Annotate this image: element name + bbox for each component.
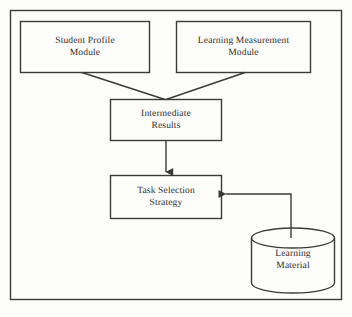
node-learning-measurement-module [177, 22, 311, 73]
edge-student-profile-to-intermediate [82, 73, 165, 100]
edge-learning-material-to-task-selection [226, 194, 291, 238]
node-student-profile-module [21, 22, 150, 73]
edge-learning-measurement-to-intermediate [166, 73, 245, 100]
node-intermediate-results [111, 100, 222, 141]
figure-canvas: Student Profile Module Learning Measurem… [0, 0, 352, 317]
diagram-svg [0, 0, 352, 317]
node-task-selection-strategy [111, 176, 222, 219]
node-learning-material-cylinder [252, 228, 335, 293]
